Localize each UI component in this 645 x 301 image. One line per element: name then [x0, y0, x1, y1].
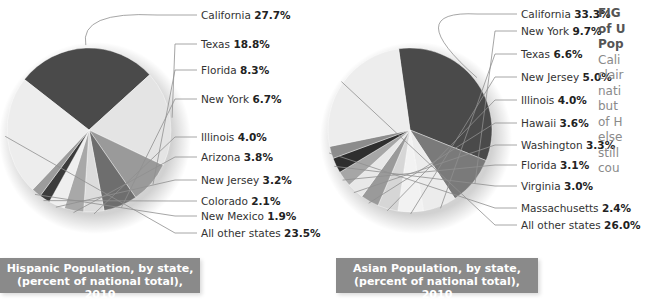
figure-body-line-4: but	[598, 99, 645, 115]
slice-label-value: 23.5%	[284, 227, 320, 239]
slice-label-all-other-states: All other states 23.5%	[201, 227, 321, 239]
figure-description-text: FIG of U Pop Cali clair nati but of H el…	[598, 6, 645, 177]
slice-label-name: California	[201, 9, 254, 21]
slice-label-name: New York	[521, 25, 572, 37]
slice-label-name: Florida	[201, 64, 240, 76]
slice-label-california: California 27.7%	[201, 9, 291, 21]
slice-label-massachusetts: Massachusetts 2.4%	[521, 202, 631, 214]
slice-label-new-york: New York 6.7%	[201, 93, 282, 105]
slice-label-value: 6.6%	[553, 48, 582, 60]
slice-label-all-other-states: All other states 26.0%	[521, 219, 641, 231]
slice-label-arizona: Arizona 3.8%	[201, 151, 273, 163]
slice-label-florida: Florida 8.3%	[201, 64, 269, 76]
slice-label-value: 2.1%	[251, 195, 280, 207]
slice-label-value: 4.0%	[558, 94, 587, 106]
slice-label-name: All other states	[521, 219, 604, 231]
figure-body-line-3: nati	[598, 84, 645, 100]
slice-label-name: New Jersey	[521, 71, 583, 83]
slice-label-name: California	[521, 8, 574, 20]
slice-label-value: 26.0%	[604, 219, 640, 231]
slice-label-illinois: Illinois 4.0%	[521, 94, 587, 106]
slice-label-name: New Jersey	[201, 174, 263, 186]
leader-line	[85, 15, 197, 46]
pie-slice-all-other-states	[328, 49, 410, 147]
slice-label-virginia: Virginia 3.0%	[521, 180, 593, 192]
slice-label-name: Hawaii	[521, 117, 560, 129]
figure-title-line-1: FIG	[598, 6, 645, 22]
slice-label-illinois: Illinois 4.0%	[201, 131, 267, 143]
caption-line-1: Asian Population, by state,	[342, 262, 532, 275]
slice-label-value: 8.3%	[240, 64, 269, 76]
slice-label-value: 3.0%	[564, 180, 593, 192]
slice-label-name: Illinois	[201, 131, 238, 143]
slice-label-value: 3.1%	[560, 159, 589, 171]
caption-line-2: (percent of national total), 2010	[6, 275, 194, 301]
slice-label-value: 6.7%	[252, 93, 281, 105]
asian-caption: Asian Population, by state, (percent of …	[336, 258, 538, 293]
slice-label-new-jersey: New Jersey 3.2%	[201, 174, 292, 186]
slice-label-florida: Florida 3.1%	[521, 159, 589, 171]
figure-body-line-7: still	[598, 146, 645, 162]
slice-label-new-york: New York 9.7%	[521, 25, 602, 37]
slice-label-new-mexico: New Mexico 1.9%	[201, 210, 296, 222]
hispanic-pie	[0, 0, 320, 291]
slice-label-name: Illinois	[521, 94, 558, 106]
slice-label-name: Washington	[521, 139, 586, 151]
figure-body-line-1: Cali	[598, 53, 645, 69]
slice-label-name: Colorado	[201, 195, 251, 207]
asian-pie-chart: California 33.3%New York 9.7%Texas 6.6%N…	[320, 0, 600, 291]
slice-label-name: New York	[201, 93, 252, 105]
figure-title-line-2: of U	[598, 22, 645, 38]
slice-label-value: 4.0%	[238, 131, 267, 143]
slice-label-colorado: Colorado 2.1%	[201, 195, 280, 207]
caption-line-1: Hispanic Population, by state,	[6, 262, 194, 275]
figure-body-line-2: clair	[598, 68, 645, 84]
figure-body-line-8: cou	[598, 161, 645, 177]
slice-label-name: Arizona	[201, 151, 244, 163]
slice-label-value: 3.6%	[560, 117, 589, 129]
slice-label-name: Massachusetts	[521, 202, 602, 214]
slice-label-name: Texas	[521, 48, 553, 60]
figure-body-line-5: of H	[598, 115, 645, 131]
figure-body-line-6: else	[598, 130, 645, 146]
slice-label-value: 27.7%	[254, 9, 290, 21]
slice-label-name: Texas	[201, 38, 233, 50]
slice-label-value: 18.8%	[233, 38, 269, 50]
caption-line-2: (percent of national total), 2010	[342, 275, 532, 301]
slice-label-hawaii: Hawaii 3.6%	[521, 117, 589, 129]
slice-label-value: 3.2%	[263, 174, 292, 186]
slice-label-texas: Texas 18.8%	[201, 38, 270, 50]
slice-label-texas: Texas 6.6%	[521, 48, 583, 60]
slice-label-name: Florida	[521, 159, 560, 171]
slice-label-value: 3.8%	[244, 151, 273, 163]
hispanic-pie-chart: California 27.7%Texas 18.8%Florida 8.3%N…	[0, 0, 320, 291]
slice-label-name: Virginia	[521, 180, 564, 192]
slice-label-name: New Mexico	[201, 210, 267, 222]
slice-label-name: All other states	[201, 227, 284, 239]
hispanic-caption: Hispanic Population, by state, (percent …	[0, 258, 200, 293]
slice-label-value: 2.4%	[602, 202, 631, 214]
slice-label-value: 1.9%	[267, 210, 296, 222]
figure-title-line-3: Pop	[598, 37, 645, 53]
